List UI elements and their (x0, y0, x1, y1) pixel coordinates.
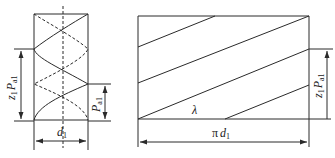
circumference-label: πd1 (212, 126, 230, 141)
lead-label-right: z1Pa1 (311, 73, 326, 99)
back-helix-curve (34, 14, 88, 120)
svg-text:z1Pa1: z1Pa1 (4, 75, 19, 101)
development-view: λ πd1 z1Pa1 (138, 16, 333, 147)
cylinder-view: z1Pa1 Pa1 d1 (4, 6, 111, 150)
lead-total-label: z1Pa1 (4, 75, 19, 101)
axial-pitch-label: Pa1 (89, 97, 104, 113)
worm-lead-diagram: z1Pa1 Pa1 d1 λ πd1 (0, 0, 335, 158)
svg-text:z1Pa1: z1Pa1 (311, 73, 326, 99)
diameter-label: d1 (57, 125, 67, 140)
helix-line-3 (138, 49, 309, 119)
helix-line-1 (138, 16, 215, 47)
helix-line-2 (138, 16, 309, 83)
svg-text:Pa1: Pa1 (89, 97, 104, 113)
lead-angle-label: λ (191, 103, 197, 117)
helix-line-4 (225, 85, 309, 119)
